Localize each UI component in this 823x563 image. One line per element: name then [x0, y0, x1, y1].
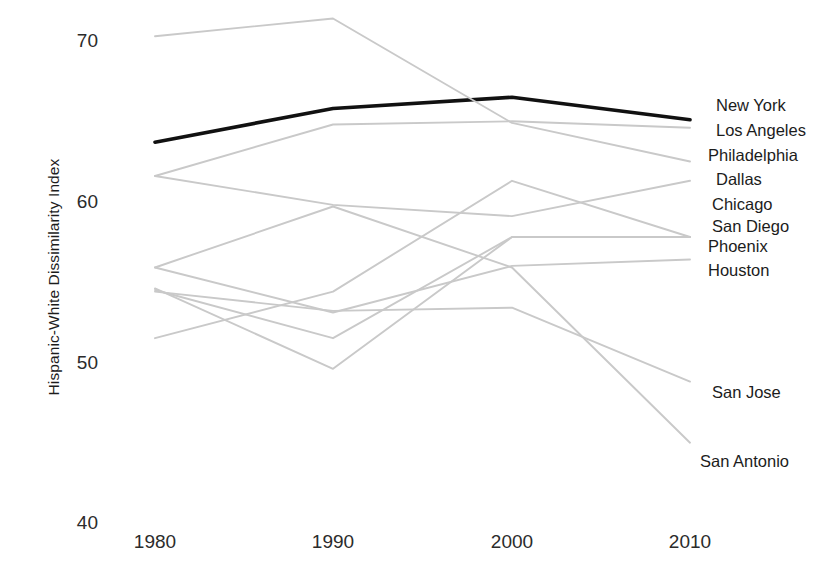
- series-label: Phoenix: [708, 238, 768, 255]
- series-line: [155, 176, 690, 216]
- series-label: San Diego: [712, 218, 789, 235]
- series-label: Philadelphia: [708, 147, 798, 164]
- series-line: [155, 19, 690, 162]
- plot-area: [0, 0, 823, 563]
- series-label: San Antonio: [700, 453, 789, 470]
- series-line: [155, 181, 690, 338]
- series-line: [155, 292, 690, 382]
- series-label: New York: [716, 97, 786, 114]
- series-label: Chicago: [712, 196, 773, 213]
- series-label: San Jose: [712, 384, 781, 401]
- line-chart: Hispanic-White Dissimilarity Index 70605…: [0, 0, 823, 563]
- series-label: Dallas: [716, 171, 762, 188]
- series-label: Los Angeles: [716, 122, 806, 139]
- series-lines: [155, 19, 690, 443]
- series-line: [155, 97, 690, 142]
- series-label: Houston: [708, 262, 769, 279]
- series-line: [155, 121, 690, 176]
- series-line: [155, 260, 690, 313]
